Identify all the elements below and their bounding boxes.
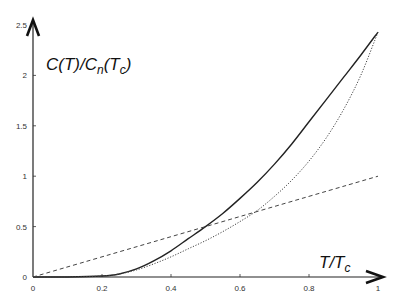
x-tick-label: 0 xyxy=(31,284,36,293)
x-tick-label: 0.8 xyxy=(303,284,315,293)
y-tick-label: 0.5 xyxy=(16,223,28,232)
y-tick-label: 1.5 xyxy=(16,122,28,131)
y-tick-label: 2.5 xyxy=(16,21,28,30)
x-axis-title: T/Tc xyxy=(319,253,351,275)
x-tick-label: 0.6 xyxy=(234,284,246,293)
y-tick-label: 0 xyxy=(23,273,28,282)
y-axis-title: C(T)/Cn(Tc) xyxy=(46,55,131,77)
chart: 00.20.40.60.8100.511.522.5 T/Tc C(T)/Cn(… xyxy=(0,0,396,307)
x-tick-label: 1 xyxy=(376,284,381,293)
y-tick-label: 2 xyxy=(23,71,28,80)
x-tick-label: 0.2 xyxy=(96,284,108,293)
y-tick-label: 1 xyxy=(23,172,28,181)
x-tick-label: 0.4 xyxy=(165,284,177,293)
